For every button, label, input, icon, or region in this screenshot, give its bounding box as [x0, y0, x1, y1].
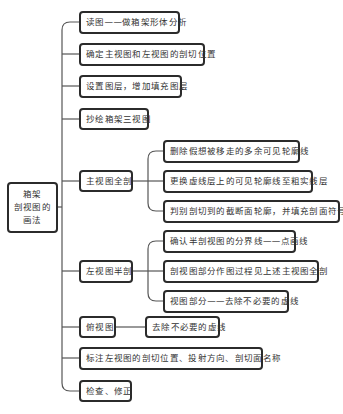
left-substep-1: 确认半剖视图的分界线——点画线 [163, 230, 296, 253]
step-layers: 设置图层，增加填充图层 [79, 75, 182, 98]
front-substep-1: 删除假想被移走的多余可见轮廓线 [163, 140, 300, 163]
left-substep-2: 剖视图部分作图过程见上述主视图全剖 [163, 260, 319, 283]
step-check-fix: 检查、修正 [79, 380, 132, 402]
top-substep-1: 去除不必要的虚线 [145, 316, 220, 338]
step-top-view: 俯视图 [79, 316, 116, 338]
front-substep-2: 更换虚线层上的可见轮廓线至粗实线层 [163, 170, 313, 193]
root-line-2: 剖视图的 [14, 201, 51, 214]
step-left-half-section: 左视图半剖 [79, 260, 133, 283]
step-front-full-section: 主视图全剖 [79, 170, 133, 192]
left-substep-3: 视图部分——去除不必要的虚线 [163, 290, 289, 313]
root-node: 箱架 剖视图的 画法 [7, 182, 58, 233]
front-substep-3: 判别剖切到的截断面轮廓，并填充剖面符号 [163, 200, 340, 223]
step-copy-views: 抄绘箱架三视图 [79, 108, 149, 130]
root-line-3: 画法 [23, 214, 42, 227]
step-cut-position: 确定主视图和左视图的剖切位置 [79, 43, 205, 66]
root-line-1: 箱架 [23, 188, 42, 201]
step-annotate: 标注左视图的剖切位置、投射方向、剖切面名称 [79, 347, 263, 370]
step-read-drawing: 读图——做箱架形体分析 [79, 11, 180, 34]
